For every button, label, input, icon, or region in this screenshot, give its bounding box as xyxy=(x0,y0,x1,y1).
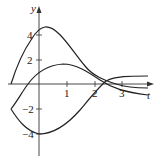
plot-area: 1 2 3 4 2 −2 −4 t y xyxy=(0,0,160,158)
tick-marks xyxy=(36,35,122,134)
x-tick-label-3: 3 xyxy=(119,87,125,99)
x-axis-arrow-icon xyxy=(147,82,154,87)
y-tick-label-neg2: −2 xyxy=(22,103,34,115)
y-tick-label-2: 2 xyxy=(27,54,33,66)
y-tick-label-neg4: −4 xyxy=(22,128,34,140)
x-tick-label-1: 1 xyxy=(64,87,70,99)
y-axis-label: y xyxy=(30,2,36,14)
y-axis-arrow-icon xyxy=(37,6,42,13)
